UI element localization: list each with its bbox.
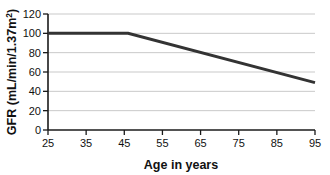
x-tick-label-55: 55 bbox=[156, 137, 168, 149]
gfr-vs-age-chart: 120 100 80 60 40 20 0 25 35 45 55 65 75 bbox=[0, 0, 330, 175]
y-axis-title-suffix: ) bbox=[5, 9, 19, 13]
x-axis-tick-labels: 25 35 45 55 65 75 85 95 bbox=[42, 137, 321, 149]
y-tick-label-60: 60 bbox=[29, 66, 41, 78]
y-axis-tick-labels: 120 100 80 60 40 20 0 bbox=[23, 8, 41, 136]
x-axis-title: Age in years bbox=[144, 158, 218, 172]
chart-canvas: 120 100 80 60 40 20 0 25 35 45 55 65 75 bbox=[0, 0, 330, 175]
y-tick-label-40: 40 bbox=[29, 85, 41, 97]
y-tick-label-100: 100 bbox=[23, 27, 41, 39]
x-tick-label-25: 25 bbox=[42, 137, 54, 149]
y-tick-label-20: 20 bbox=[29, 105, 41, 117]
x-tick-label-45: 45 bbox=[118, 137, 130, 149]
y-axis-title: GFR (mL/min/1.37m2) bbox=[4, 9, 19, 135]
x-tick-label-85: 85 bbox=[271, 137, 283, 149]
y-axis-title-group: GFR (mL/min/1.37m2) bbox=[4, 9, 19, 135]
x-tick-label-65: 65 bbox=[194, 137, 206, 149]
x-tick-label-75: 75 bbox=[233, 137, 245, 149]
x-tick-label-95: 95 bbox=[309, 137, 321, 149]
x-tick-label-35: 35 bbox=[80, 137, 92, 149]
y-tick-label-120: 120 bbox=[23, 8, 41, 20]
y-tick-label-0: 0 bbox=[35, 124, 41, 136]
y-axis-title-main: GFR (mL/min/1.37m bbox=[5, 18, 19, 135]
y-tick-label-80: 80 bbox=[29, 47, 41, 59]
